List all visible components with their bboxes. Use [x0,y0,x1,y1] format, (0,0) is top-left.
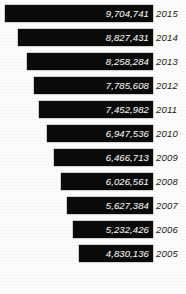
bar: 5,232,426 [73,221,153,238]
bar-value-label: 8,258,284 [106,53,153,70]
bar-value-label: 5,232,426 [106,221,153,238]
bar-row: 4,830,136 2005 [0,245,186,262]
bar-value-label: 6,026,561 [106,173,153,190]
bar-year-label: 2009 [156,149,178,166]
bar-year-label: 2014 [156,29,178,46]
bar-value-label: 4,830,136 [106,245,153,262]
bar-row: 8,827,431 2014 [0,29,186,46]
bar-value-label: 7,785,608 [106,77,153,94]
bar-year-label: 2008 [156,173,178,190]
bar-value-label: 7,452,982 [106,101,153,118]
bar-year-label: 2010 [156,125,178,142]
bar: 7,452,982 [39,101,153,118]
bar-row: 5,627,384 2007 [0,197,186,214]
bar-row: 9,704,741 2015 [0,5,186,22]
bar-year-label: 2015 [156,5,178,22]
bar-row: 7,785,608 2012 [0,77,186,94]
bar-year-label: 2005 [156,245,178,262]
bar-year-label: 2006 [156,221,178,238]
bar-row: 5,232,426 2006 [0,221,186,238]
bar-year-label: 2011 [156,101,177,118]
bar-row: 7,452,982 2011 [0,101,186,118]
bar-value-label: 9,704,741 [106,5,153,22]
bar-chart: 9,704,741 2015 8,827,431 2014 8,258,284 … [0,0,186,294]
bar-row: 6,466,713 2009 [0,149,186,166]
bar-value-label: 6,466,713 [106,149,153,166]
bar: 9,704,741 [5,5,153,22]
bar: 6,947,536 [47,125,153,142]
bar: 6,466,713 [54,149,153,166]
bar: 5,627,384 [67,197,153,214]
bar: 6,026,561 [61,173,153,190]
bar-value-label: 5,627,384 [106,197,153,214]
bar-value-label: 8,827,431 [106,29,153,46]
bar: 8,827,431 [18,29,153,46]
bar-row: 6,947,536 2010 [0,125,186,142]
bar: 4,830,136 [79,245,153,262]
bar-row: 8,258,284 2013 [0,53,186,70]
bar: 7,785,608 [34,77,153,94]
bar-row: 6,026,561 2008 [0,173,186,190]
bar-year-label: 2013 [156,53,178,70]
bar-year-label: 2012 [156,77,178,94]
bar: 8,258,284 [27,53,153,70]
bar-year-label: 2007 [156,197,178,214]
bar-value-label: 6,947,536 [106,125,153,142]
